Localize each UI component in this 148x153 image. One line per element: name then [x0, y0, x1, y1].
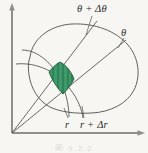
label-theta: θ: [121, 28, 126, 39]
leader-r: [64, 108, 68, 118]
label-r-plus-delta-r: r + Δr: [80, 120, 108, 131]
axes-group: [9, 3, 145, 136]
shaded-area-element: [49, 58, 74, 98]
x-axis-arrowhead: [138, 130, 146, 135]
label-leader-lines: [64, 16, 124, 118]
label-r: r: [65, 120, 69, 131]
polar-area-element-figure: θ + Δθ θ r r + Δr 图 9.2.2: [0, 0, 148, 153]
label-theta-plus-delta-theta: θ + Δθ: [77, 4, 107, 15]
figure-caption: 图 9.2.2: [0, 142, 148, 151]
leader-theta: [118, 38, 124, 48]
y-axis-arrowhead: [9, 3, 15, 11]
figure-canvas: [0, 0, 148, 153]
